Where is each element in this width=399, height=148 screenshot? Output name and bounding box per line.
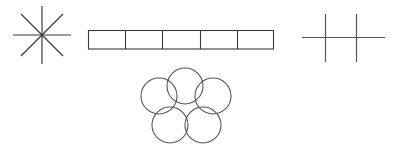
double-cross-shape bbox=[302, 14, 385, 62]
cluster-circle-lower-right bbox=[185, 107, 221, 143]
shapes-svg bbox=[0, 0, 399, 148]
cluster-circle-lower-left bbox=[152, 107, 188, 143]
segmented-bar-shape bbox=[89, 31, 274, 50]
cluster-circle-upper-left bbox=[141, 78, 177, 114]
circle-cluster-shape bbox=[141, 68, 231, 143]
segmented-bar-outline bbox=[89, 31, 274, 50]
figure-canvas bbox=[0, 0, 399, 148]
asterisk-shape bbox=[13, 6, 71, 64]
